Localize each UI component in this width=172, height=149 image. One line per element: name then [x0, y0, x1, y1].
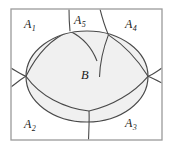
label-a2: A2 [24, 118, 35, 130]
label-a2-subscript: 2 [32, 124, 36, 133]
label-b-base: B [81, 68, 89, 82]
label-a5-base: A [74, 13, 81, 27]
label-a3: A3 [125, 117, 136, 129]
label-a1: A1 [24, 18, 35, 30]
label-a4: A4 [125, 18, 136, 30]
label-a3-subscript: 3 [133, 123, 137, 132]
arc-a2-a3-divider [89, 111, 90, 140]
label-a3-base: A [125, 116, 132, 130]
label-a4-subscript: 4 [133, 24, 137, 33]
label-a5: A5 [74, 14, 85, 26]
label-a1-base: A [24, 17, 31, 31]
label-a1-subscript: 1 [32, 24, 36, 33]
figure-container: A1 A5 A4 B A2 A3 [0, 0, 172, 149]
label-a5-subscript: 5 [82, 20, 86, 29]
label-a4-base: A [125, 17, 132, 31]
label-b: B [81, 69, 89, 82]
label-a2-base: A [24, 117, 31, 131]
